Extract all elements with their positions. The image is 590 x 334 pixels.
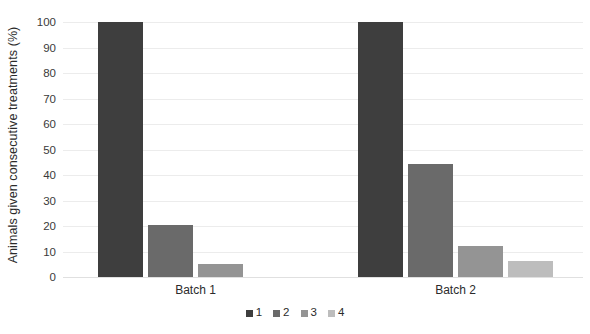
- y-axis-tick-label: 40: [43, 169, 56, 181]
- legend-label: 2: [283, 307, 289, 319]
- legend-item[interactable]: 4: [328, 307, 344, 319]
- legend-label: 1: [256, 307, 262, 319]
- y-axis-tick-label: 80: [43, 67, 56, 79]
- y-axis-tick-label: 0: [50, 271, 56, 283]
- y-axis-title: Animals given consecutive treatments (%): [0, 0, 26, 290]
- y-axis-title-text: Animals given consecutive treatments (%): [6, 27, 20, 264]
- x-axis-category-label: Batch 2: [435, 283, 476, 297]
- y-axis-tick-label: 100: [37, 16, 56, 28]
- y-axis-tick-label: 10: [43, 246, 56, 258]
- bar: [508, 261, 553, 277]
- bar: [458, 246, 503, 277]
- y-axis-tick-label: 90: [43, 42, 56, 54]
- legend-label: 3: [311, 307, 317, 319]
- y-axis-tick-label: 70: [43, 93, 56, 105]
- y-axis-tick-label: 50: [43, 144, 56, 156]
- x-axis-category-label: Batch 1: [175, 283, 216, 297]
- legend-swatch-icon: [301, 310, 308, 317]
- y-axis-tick-label: 30: [43, 195, 56, 207]
- legend-swatch-icon: [246, 310, 253, 317]
- y-axis-tick-label: 60: [43, 118, 56, 130]
- legend-label: 4: [338, 307, 344, 319]
- legend-swatch-icon: [273, 310, 280, 317]
- bar: [148, 225, 193, 277]
- bar: [198, 264, 243, 277]
- gridline: [63, 277, 583, 278]
- y-axis-tick-labels: 1009080706050403020100: [26, 22, 60, 277]
- plot-area: [63, 22, 583, 277]
- chart-legend: 1234: [0, 303, 590, 323]
- x-axis-category-labels: Batch 1Batch 2: [63, 283, 583, 301]
- legend-swatch-icon: [328, 310, 335, 317]
- bar: [358, 22, 403, 277]
- bar: [408, 164, 453, 277]
- legend-item[interactable]: 1: [246, 307, 262, 319]
- legend-item[interactable]: 2: [273, 307, 289, 319]
- bar-chart: Animals given consecutive treatments (%)…: [0, 0, 590, 334]
- bar: [98, 22, 143, 277]
- legend-item[interactable]: 3: [301, 307, 317, 319]
- y-axis-tick-label: 20: [43, 220, 56, 232]
